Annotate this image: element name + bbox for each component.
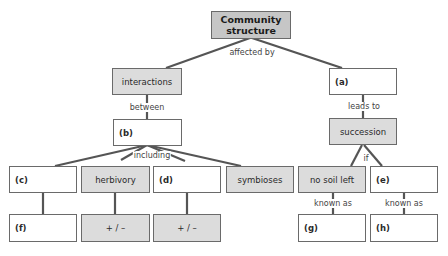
node-no-soil-left: no soil left [298, 166, 366, 193]
node-no-soil-left-label: no soil left [310, 175, 354, 185]
node-b-blank[interactable]: (b) [113, 119, 182, 146]
node-g-blank[interactable]: (g) [298, 214, 366, 242]
node-herbivory-effect-label: + / – [106, 223, 126, 233]
root-node-label: Community structure [212, 14, 290, 36]
node-interactions-label: interactions [122, 77, 172, 87]
node-d-effect-label: + / – [177, 223, 197, 233]
link-label-leads-to: leads to [347, 102, 381, 111]
link-label-if: if [362, 154, 369, 163]
node-c-blank[interactable]: (c) [9, 166, 77, 193]
node-a-label: (a) [335, 77, 349, 87]
node-b-label: (b) [119, 128, 133, 138]
node-f-label: (f) [15, 223, 26, 233]
node-a-blank[interactable]: (a) [329, 68, 397, 95]
node-e-label: (e) [376, 175, 390, 185]
node-d-label: (d) [159, 175, 173, 185]
link-label-known-as-h: known as [384, 199, 424, 208]
link-label-including: including [133, 151, 171, 160]
node-d-blank[interactable]: (d) [153, 166, 221, 193]
node-c-label: (c) [15, 175, 28, 185]
node-h-blank[interactable]: (h) [370, 214, 438, 242]
node-interactions: interactions [112, 68, 182, 95]
node-herbivory: herbivory [81, 166, 150, 193]
link-label-known-as-g: known as [313, 199, 353, 208]
node-f-blank[interactable]: (f) [9, 214, 77, 242]
node-symbioses-label: symbioses [238, 175, 283, 185]
link-label-affected-by: affected by [228, 48, 275, 57]
root-node-community-structure: Community structure [211, 11, 291, 39]
node-e-blank[interactable]: (e) [370, 166, 438, 193]
link-label-between: between [129, 103, 166, 112]
node-herbivory-label: herbivory [95, 175, 136, 185]
node-g-label: (g) [304, 223, 318, 233]
node-succession: succession [329, 118, 397, 145]
node-h-label: (h) [376, 223, 390, 233]
node-d-effect: + / – [153, 214, 221, 242]
node-herbivory-effect: + / – [81, 214, 150, 242]
node-symbioses: symbioses [226, 166, 294, 193]
node-succession-label: succession [340, 127, 386, 137]
